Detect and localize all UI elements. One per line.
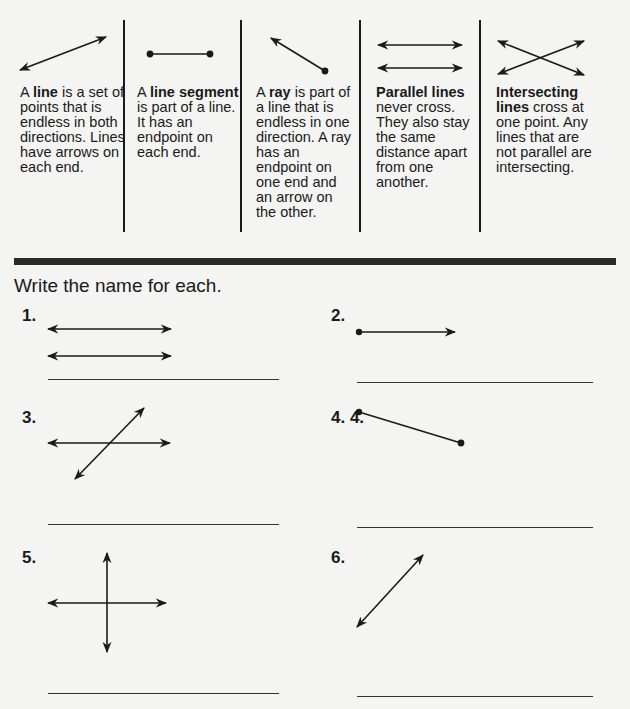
definition-line: A line is a set of points that is endles… bbox=[20, 85, 130, 175]
definition-line-segment: A line segment is part of a line. It has… bbox=[137, 85, 247, 160]
definition-parallel-lines: Parallel lines never cross. They also st… bbox=[376, 85, 476, 190]
line-icon bbox=[20, 37, 106, 70]
section-divider bbox=[14, 258, 616, 265]
item-number-1: 1. bbox=[22, 306, 36, 326]
answer-line-6[interactable] bbox=[357, 696, 593, 697]
instruction: Write the name for each. bbox=[14, 275, 222, 297]
item-number-5: 5. bbox=[22, 548, 36, 568]
answer-line-1[interactable] bbox=[48, 379, 279, 380]
answer-line-4[interactable] bbox=[357, 527, 593, 528]
column-divider bbox=[240, 20, 242, 232]
intersect-icon-1 bbox=[498, 41, 584, 75]
item-number-6: 6. bbox=[331, 548, 345, 568]
term: line segment bbox=[150, 84, 239, 100]
column-divider bbox=[479, 20, 481, 232]
answer-line-5[interactable] bbox=[48, 693, 279, 694]
item-number-2: 2. bbox=[331, 306, 345, 326]
item-number-4: 4. 4. bbox=[331, 408, 364, 428]
ray-icon bbox=[271, 38, 325, 71]
answer-line-2[interactable] bbox=[357, 382, 593, 383]
term: Parallel lines bbox=[376, 84, 465, 100]
answer-line-3[interactable] bbox=[48, 524, 279, 525]
intersect-icon-2 bbox=[498, 41, 584, 74]
term: ray bbox=[269, 84, 291, 100]
definition-ray: A ray is part of a line that is endless … bbox=[256, 85, 356, 220]
term: line bbox=[33, 84, 58, 100]
item-number-3: 3. bbox=[22, 408, 36, 428]
definition-intersecting-lines: Intersecting lines cross at one point. A… bbox=[496, 85, 596, 175]
column-divider bbox=[123, 20, 125, 232]
column-divider bbox=[359, 20, 361, 232]
